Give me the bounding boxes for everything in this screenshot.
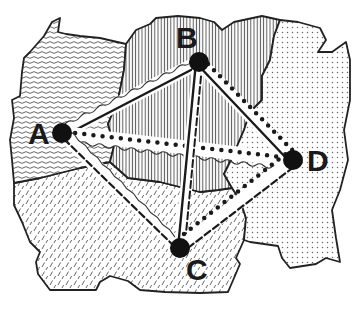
node-c-label: C	[186, 253, 208, 286]
node-b-marker	[189, 52, 209, 72]
node-b-label: B	[176, 21, 198, 54]
map-graph-diagram: A B C D	[0, 0, 363, 320]
region-northwest	[10, 18, 126, 183]
node-a-label: A	[28, 117, 50, 150]
node-d-label: D	[307, 144, 329, 177]
node-a-marker	[52, 123, 72, 143]
node-d-marker	[283, 150, 303, 170]
